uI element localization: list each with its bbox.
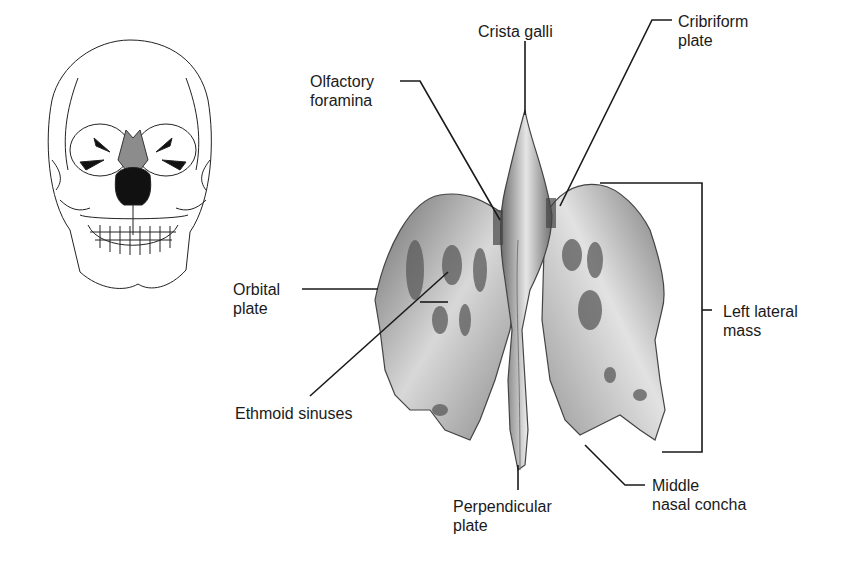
label-middle-concha-line1: Middle (652, 476, 746, 495)
label-ethmoid-sinuses: Ethmoid sinuses (235, 404, 352, 423)
label-left-lateral-line1: Left lateral (723, 302, 798, 321)
label-cribriform-line2: plate (678, 31, 748, 50)
label-cribriform-line1: Cribriform (678, 12, 748, 31)
label-left-lateral-line2: mass (723, 321, 798, 340)
label-perpendicular-line2: plate (453, 516, 552, 535)
ethmoid-bone-illustration (375, 110, 665, 470)
label-middle-concha-line2: nasal concha (652, 495, 746, 514)
label-orbital-line2: plate (233, 299, 280, 318)
left-lateral-mass-shape (542, 184, 665, 440)
leader-middle-nasal-concha (585, 445, 645, 485)
label-olfactory-line1: Olfactory (310, 72, 374, 91)
label-perpendicular-line1: Perpendicular (453, 497, 552, 516)
label-olfactory-foramina: Olfactory foramina (310, 72, 374, 110)
label-olfactory-line2: foramina (310, 91, 374, 110)
label-left-lateral-mass: Left lateral mass (723, 302, 798, 340)
label-orbital-line1: Orbital (233, 280, 280, 299)
label-crista-galli: Crista galli (478, 22, 553, 41)
leader-cribriform-plate (560, 20, 672, 206)
label-middle-nasal-concha: Middle nasal concha (652, 476, 746, 514)
skull-thumbnail (48, 40, 211, 288)
label-cribriform-plate: Cribriform plate (678, 12, 748, 50)
label-orbital-plate: Orbital plate (233, 280, 280, 318)
label-perpendicular-plate: Perpendicular plate (453, 497, 552, 535)
